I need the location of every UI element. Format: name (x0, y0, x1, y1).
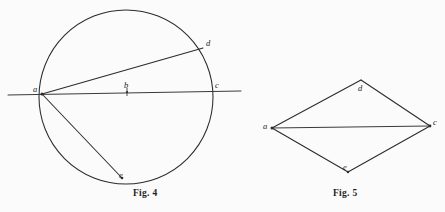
fig-5-label-c: c (433, 118, 437, 127)
fig-4-point-b-dot (126, 91, 128, 93)
figure-plate: a b c d e a d c e Fig. 4 Fig. 5 (0, 0, 445, 212)
fig-4-label-d: d (206, 39, 210, 48)
fig-5-label-d: d (358, 84, 362, 93)
figures-vector-canvas (0, 0, 445, 212)
fig-4-caption: Fig. 4 (133, 189, 158, 199)
fig-4-chord-ae (42, 94, 122, 178)
fig-5-point-c-dot (429, 125, 432, 128)
fig-5-label-a: a (263, 122, 267, 131)
fig-5-point-e-dot (347, 171, 349, 173)
fig-5-point-a-dot (271, 127, 274, 130)
fig-4-label-b: b (124, 81, 128, 90)
fig-5-edge-ce (348, 126, 430, 172)
fig-5-edge-ea (272, 128, 348, 172)
fig-5-diagonal-ac (272, 126, 430, 128)
fig-5-edge-ad (272, 80, 361, 128)
fig-4-point-a-dot (41, 93, 44, 96)
fig-4-chord-ad (42, 48, 203, 94)
fig-4-group (8, 10, 241, 184)
fig-4-label-a: a (33, 85, 37, 94)
fig-4-label-c: c (215, 81, 219, 90)
fig-5-caption: Fig. 5 (333, 189, 358, 199)
fig-4-label-e: e (119, 171, 123, 180)
fig-5-label-e: e (343, 163, 347, 172)
fig-5-edge-dc (361, 80, 430, 126)
fig-4-circle (39, 10, 213, 184)
fig-5-group (271, 80, 432, 173)
